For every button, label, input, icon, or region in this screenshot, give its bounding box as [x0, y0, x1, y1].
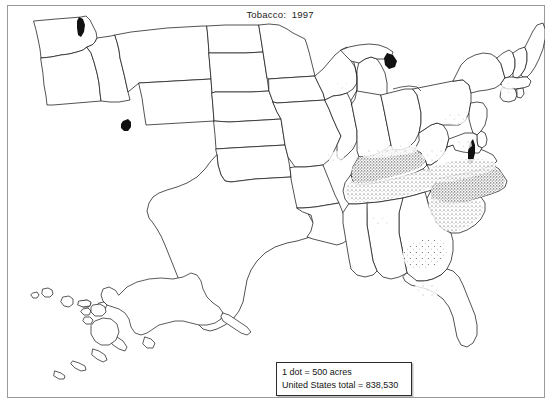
- alaska-nunivak: [83, 317, 93, 324]
- hawaii-lanai: [81, 308, 91, 315]
- great-salt-lake: [121, 119, 131, 131]
- state-kansas: [214, 119, 285, 149]
- state-pennsylvania: [413, 80, 471, 133]
- alaska-aleutian-3: [71, 361, 86, 371]
- alaska-kodiak: [143, 337, 155, 348]
- alaska-aleutian-2: [92, 349, 107, 362]
- hawaii-big-island: [91, 318, 119, 345]
- hawaii-molokai: [78, 300, 91, 307]
- state-rhode-island: [517, 88, 524, 98]
- alaska-aleutian-4: [54, 371, 65, 379]
- dots-pennsylvania: [445, 113, 467, 125]
- state-delaware: [477, 131, 487, 148]
- lake-huron-detail: [384, 53, 397, 69]
- hawaii-oahu: [61, 296, 73, 307]
- state-new-jersey: [469, 102, 487, 135]
- state-north-dakota: [207, 25, 263, 53]
- state-south-dakota: [209, 52, 269, 93]
- map-legend: 1 dot = 500 acres United States total = …: [276, 362, 412, 396]
- state-florida: [403, 269, 477, 347]
- map-plate: Tobacco: 1997: [0, 0, 560, 406]
- legend-dot-value: 1 dot = 500 acres: [282, 366, 411, 379]
- legend-us-total: United States total = 838,530: [282, 379, 411, 392]
- hawaii-niihau: [31, 292, 39, 298]
- state-oklahoma: [216, 145, 291, 182]
- state-arkansas: [290, 165, 339, 208]
- us-dot-density-map: [7, 5, 545, 398]
- hawaii-kauai: [42, 288, 53, 297]
- state-wyoming: [139, 79, 214, 125]
- state-minnesota: [259, 24, 315, 79]
